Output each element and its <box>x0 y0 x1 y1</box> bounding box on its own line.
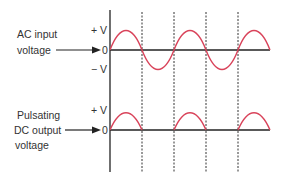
ac-arrow-head <box>92 47 101 54</box>
dc-pulse-2 <box>174 113 206 130</box>
dc-plus-v-label: + V <box>91 104 107 117</box>
ac-input-label-line1: AC input <box>17 28 57 41</box>
dc-zero-label: 0 <box>102 124 108 137</box>
period-dividers <box>142 12 238 172</box>
ac-minus-v-label: − V <box>91 63 107 76</box>
dc-pulse-3 <box>238 113 270 130</box>
dc-output-label-line1: Pulsating <box>17 109 60 122</box>
ac-input-label-line2: voltage <box>17 44 51 57</box>
dc-arrow-head <box>92 127 101 134</box>
dc-output-label-line3: voltage <box>15 139 49 152</box>
ac-zero-label: 0 <box>102 44 108 57</box>
ac-plus-v-label: + V <box>91 24 107 37</box>
dc-output-label-line2: DC output <box>14 124 61 137</box>
dc-pulse-1 <box>110 113 142 130</box>
